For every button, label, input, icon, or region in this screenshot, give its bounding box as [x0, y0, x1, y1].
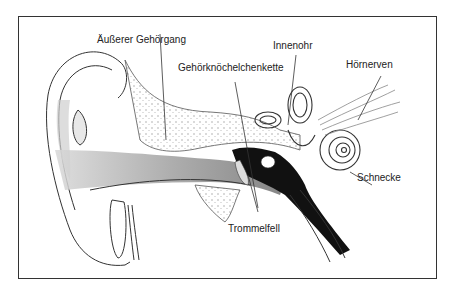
label-ossicles: Gehörknöchelchenkette [178, 63, 284, 73]
label-cochlea: Schnecke [357, 173, 401, 183]
label-auditory-nerve: Hörnerven [346, 60, 393, 70]
cochlea-spiral [320, 130, 360, 170]
label-eardrum: Trommelfell [228, 224, 280, 234]
ear-illustration [0, 0, 450, 296]
label-outer-canal: Äußerer Gehörgang [97, 35, 186, 45]
label-inner-ear: Innenohr [273, 41, 312, 51]
